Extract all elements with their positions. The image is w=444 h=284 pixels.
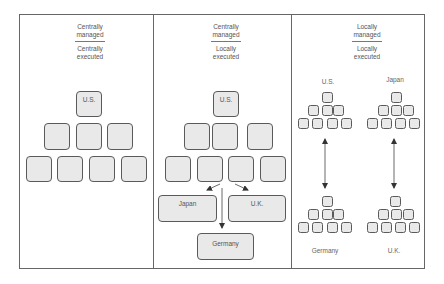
panel-3-arrows <box>325 139 394 188</box>
arrow-to-uk-icon <box>235 184 248 190</box>
panel-2-arrows <box>207 184 248 228</box>
arrows-layer <box>0 0 444 284</box>
arrow-to-japan-icon <box>207 184 220 190</box>
